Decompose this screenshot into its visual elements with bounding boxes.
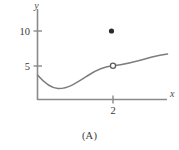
- y-axis-label: y: [33, 0, 39, 11]
- function-curve: [38, 54, 168, 89]
- open-point-marker: [110, 63, 115, 68]
- y-tick-label-5: 5: [25, 61, 30, 72]
- x-axis-label: x: [169, 88, 175, 99]
- figure-panel-a: y x 10 5 2 (A): [0, 0, 179, 150]
- filled-point-marker: [109, 28, 114, 33]
- plot-area: y x 10 5 2: [0, 0, 179, 150]
- y-tick-label-10: 10: [20, 26, 31, 37]
- figure-caption: (A): [0, 130, 179, 141]
- x-tick-label-2: 2: [110, 105, 115, 116]
